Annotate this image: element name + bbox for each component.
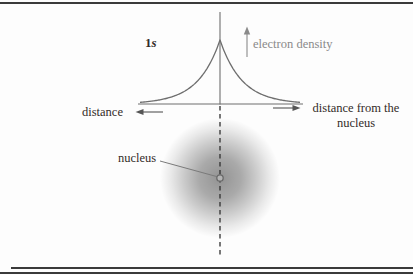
orbital-letter: s [152, 35, 157, 50]
nucleus-label: nucleus [118, 151, 156, 166]
distance-right-label-line1: distance from the [300, 101, 412, 116]
distance-right-label-line2: nucleus [300, 116, 412, 131]
distance-left-arrow-icon [136, 109, 164, 115]
bottom-rule-thin [11, 267, 413, 269]
distance-left-label: distance [82, 105, 123, 120]
figure-1s-orbital: 1s electron density distance distance fr… [0, 0, 413, 275]
bottom-rule-thick [0, 272, 413, 274]
distance-right-label: distance from the nucleus [300, 101, 412, 131]
nucleus-dot [217, 175, 223, 181]
electron-density-label: electron density [253, 37, 333, 52]
electron-density-arrow-icon [244, 27, 250, 58]
distance-right-arrow-icon [273, 105, 301, 111]
orbital-diagram-canvas [0, 0, 413, 275]
orbital-label-1s: 1s [145, 35, 157, 50]
